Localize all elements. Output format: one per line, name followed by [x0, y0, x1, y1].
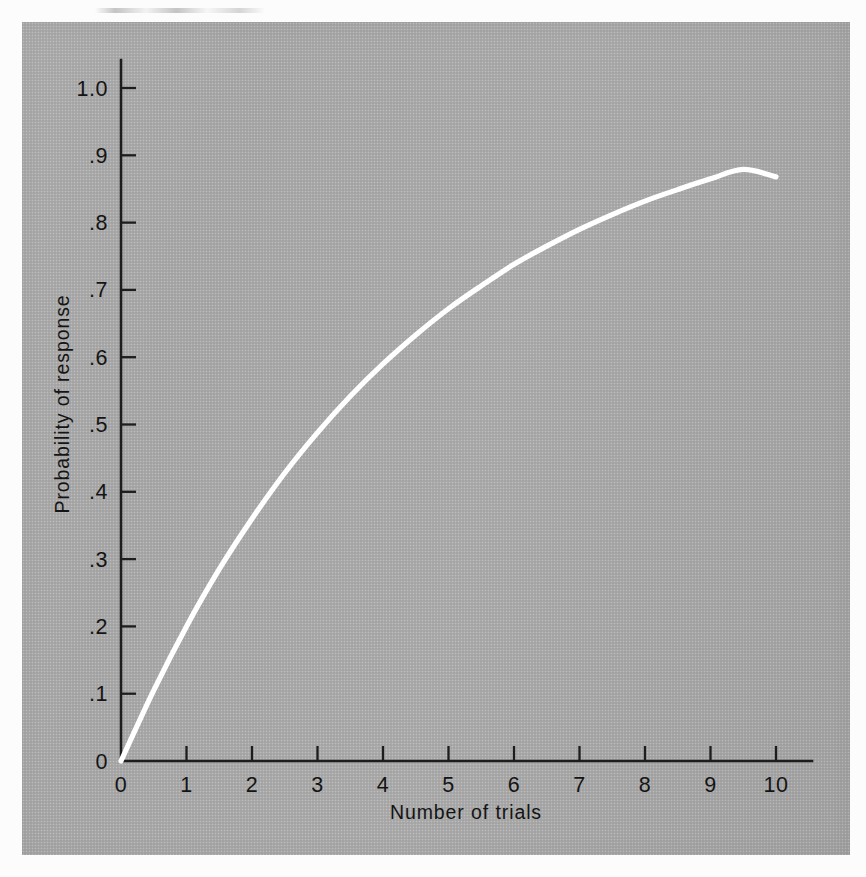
x-axis-tick-labels: 012345678910 — [115, 773, 789, 797]
x-tick-label: 0 — [115, 773, 127, 797]
y-tick-label: .1 — [89, 682, 108, 706]
y-axis-tick-labels: 0.1.2.3.4.5.6.7.8.91.0 — [77, 77, 108, 774]
x-tick-label: 6 — [508, 773, 520, 797]
y-tick-label: .2 — [89, 615, 108, 639]
y-tick-label: .7 — [89, 278, 108, 302]
y-axis-ticks — [121, 88, 136, 694]
y-tick-label: .8 — [89, 211, 108, 235]
x-tick-label: 2 — [246, 773, 258, 797]
x-tick-label: 7 — [573, 773, 585, 797]
y-axis: 0.1.2.3.4.5.6.7.8.91.0 — [77, 60, 136, 774]
figure-root: 0.1.2.3.4.5.6.7.8.91.0 012345678910 Numb… — [0, 0, 866, 877]
y-tick-label: .9 — [89, 144, 108, 168]
x-tick-label: 9 — [704, 773, 716, 797]
y-axis-title: Probability of response — [51, 294, 73, 513]
y-tick-label: 1.0 — [77, 77, 108, 101]
chart-canvas: 0.1.2.3.4.5.6.7.8.91.0 012345678910 Numb… — [0, 0, 866, 877]
x-axis: 012345678910 — [115, 746, 812, 797]
x-tick-label: 8 — [639, 773, 651, 797]
x-axis-ticks — [187, 746, 777, 761]
x-tick-label: 1 — [180, 773, 192, 797]
y-tick-label: .4 — [89, 480, 108, 504]
x-tick-label: 5 — [442, 773, 454, 797]
x-axis-title: Number of trials — [390, 801, 542, 823]
x-tick-label: 3 — [311, 773, 323, 797]
y-tick-label: .5 — [89, 413, 108, 437]
y-tick-label: 0 — [96, 750, 108, 774]
x-tick-label: 4 — [377, 773, 389, 797]
x-tick-label: 10 — [764, 773, 789, 797]
y-tick-label: .3 — [89, 548, 108, 572]
y-tick-label: .6 — [89, 346, 108, 370]
learning-curve-line — [121, 169, 776, 761]
